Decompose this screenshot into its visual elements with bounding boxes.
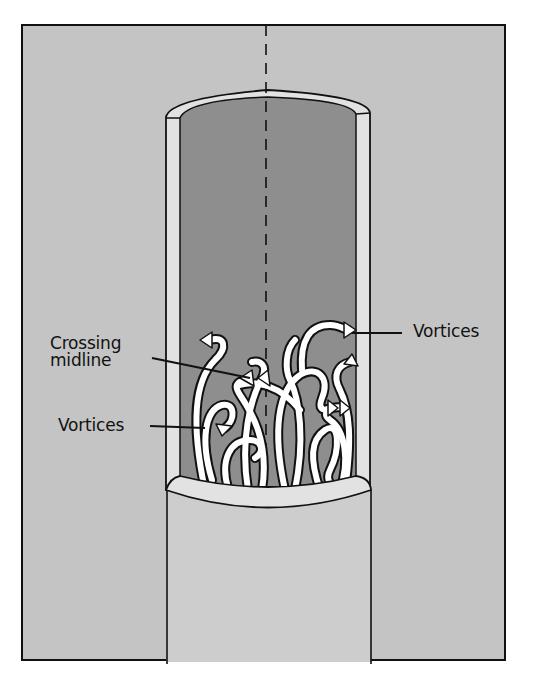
cap-right-edge bbox=[356, 113, 370, 114]
label-vortices-right: Vortices bbox=[413, 323, 479, 340]
label-crossing-midline: Crossing midline bbox=[50, 335, 121, 369]
label-crossing-line2: midline bbox=[50, 352, 121, 369]
lower-tube bbox=[166, 490, 371, 662]
label-vortices-left: Vortices bbox=[58, 417, 124, 434]
